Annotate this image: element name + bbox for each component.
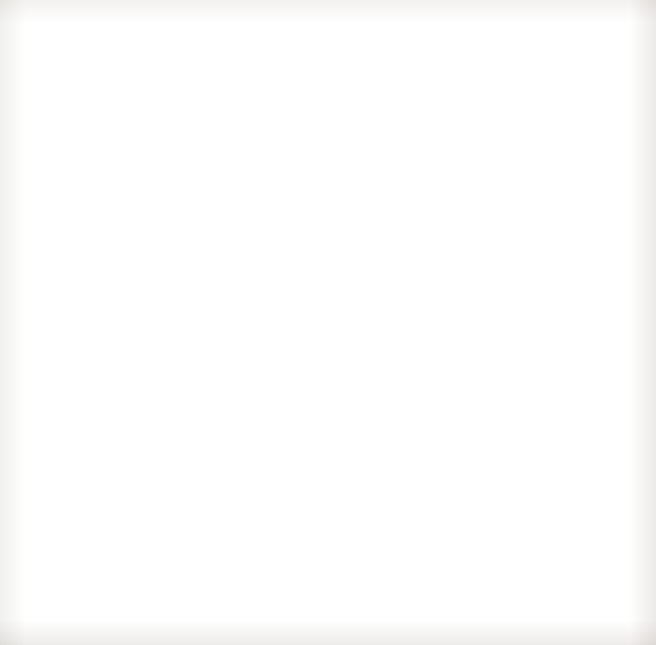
bar-segment-private <box>314 326 343 350</box>
bar-row: Israel <box>0 393 656 423</box>
bar-segment-private <box>332 221 377 245</box>
bar-segment-public <box>186 186 344 210</box>
bar-segment-private <box>308 256 369 280</box>
x-tick-marker <box>316 512 327 523</box>
category-label: France <box>125 218 185 248</box>
bar-row: United Kingdom <box>0 323 656 353</box>
bar-segment-public <box>186 361 294 385</box>
bar-row: Italy <box>0 358 656 388</box>
bar-row: Switzerland <box>0 78 656 108</box>
chart-legend: Public Private <box>492 437 592 519</box>
bar-segment-public <box>186 46 371 70</box>
bar-row: Netherlands <box>0 113 656 143</box>
stacked-bar <box>186 466 238 490</box>
bar-segment-public <box>186 256 308 280</box>
bar-segment-public <box>186 151 332 175</box>
legend-label-private: Private <box>533 482 592 504</box>
stacked-bar <box>186 361 323 385</box>
bar-segment-public <box>186 116 380 140</box>
bar-segment-private <box>380 116 430 140</box>
bar-segment-public <box>186 221 332 245</box>
legend-label-public: Public <box>533 441 585 463</box>
stacked-bar <box>186 116 429 140</box>
category-label: Israel <box>138 393 185 423</box>
category-label: United Kingdom <box>48 323 185 353</box>
stacked-bar <box>186 291 348 315</box>
bar-segment-private <box>353 81 463 105</box>
category-label: Netherlands <box>81 113 185 143</box>
stacked-bar <box>186 326 344 350</box>
stacked-bar <box>186 256 368 280</box>
bar-segment-private <box>211 466 238 490</box>
bar-segment-private <box>371 46 601 70</box>
bar-segment-public <box>186 466 211 490</box>
category-label: Mexico <box>124 463 185 493</box>
legend-swatch-private <box>492 479 520 508</box>
x-tick-marker <box>181 512 192 523</box>
bar-row: United States <box>0 43 656 73</box>
stacked-bar <box>186 81 463 105</box>
bar-segment-public <box>186 396 247 420</box>
bar-segment-private <box>247 396 290 420</box>
category-label: Australia <box>110 253 185 283</box>
stacked-bar <box>186 396 290 420</box>
stacked-bar <box>186 46 600 70</box>
bar-segment-public <box>186 431 220 455</box>
stacked-bar <box>186 186 400 210</box>
chart-title: Healthcare Expenditures in 14 Countries <box>26 606 359 627</box>
bar-segment-private <box>319 291 348 315</box>
category-label: Italy <box>150 358 185 388</box>
legend-item-private: Private <box>492 478 592 508</box>
x-tick-label: 6,000 <box>431 532 481 555</box>
stacked-bar <box>186 431 258 455</box>
bar-segment-private <box>294 361 323 385</box>
legend-item-public: Public <box>492 437 592 467</box>
x-tick-marker <box>451 512 462 523</box>
stacked-bar <box>186 151 398 175</box>
bar-row: Canada <box>0 148 656 178</box>
x-tick-label: 9,000 <box>566 532 616 555</box>
stacked-bar <box>186 221 377 245</box>
category-label: Switzerland <box>86 78 185 108</box>
x-axis-title: Healthcare expenditure (U.S. dollars per… <box>0 568 656 591</box>
chart-figure: United StatesSwitzerlandNetherlandsCanad… <box>0 0 656 645</box>
bar-segment-public <box>186 81 353 105</box>
bar-row: Germany <box>0 183 656 213</box>
category-label: United States <box>70 43 185 73</box>
x-axis: 03,0006,0009,000 <box>0 512 656 572</box>
bar-segment-public <box>186 291 319 315</box>
category-label: Germany <box>106 183 185 213</box>
legend-swatch-public <box>492 438 520 467</box>
category-label: Chile <box>141 428 185 458</box>
bar-segment-private <box>332 151 397 175</box>
x-tick-label: 3,000 <box>296 532 346 555</box>
category-label: Canada <box>118 148 185 178</box>
bar-row: Japan <box>0 288 656 318</box>
x-tick-label: 0 <box>180 532 191 555</box>
bar-row: France <box>0 218 656 248</box>
bar-segment-public <box>186 326 314 350</box>
category-label: Japan <box>133 288 185 318</box>
bar-row: Australia <box>0 253 656 283</box>
bar-segment-private <box>344 186 400 210</box>
bar-segment-private <box>220 431 258 455</box>
